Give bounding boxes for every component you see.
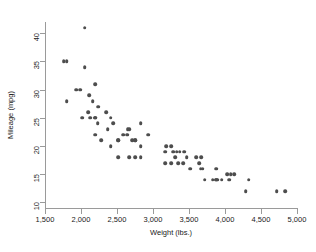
scatter-point	[112, 122, 116, 126]
scatter-point	[165, 144, 169, 148]
scatter-point	[104, 110, 108, 114]
scatter-point	[211, 178, 215, 182]
y-tick-label-text: 40	[32, 33, 41, 41]
y-tick-label-text: 15	[32, 174, 41, 182]
scatter-point	[89, 116, 93, 120]
scatter-point	[181, 161, 185, 165]
x-tick	[189, 209, 190, 214]
scatter-point	[127, 155, 131, 159]
scatter-point	[201, 167, 205, 171]
x-tick-label: 4,500	[252, 215, 271, 224]
scatter-point	[139, 122, 143, 126]
scatter-point	[94, 116, 98, 120]
scatter-point	[121, 133, 125, 137]
scatter-point	[163, 161, 167, 165]
y-tick	[40, 146, 45, 147]
scatter-point	[194, 155, 198, 159]
scatter-point	[130, 139, 134, 143]
scatter-point	[228, 178, 232, 182]
scatter-point	[117, 155, 121, 159]
scatter-point	[203, 178, 207, 182]
y-tick	[40, 118, 45, 119]
scatter-point	[65, 99, 69, 103]
scatter-point	[146, 133, 150, 137]
y-tick-label-text: 20	[32, 146, 41, 154]
y-axis-title: Mileage (mpg)	[6, 91, 15, 139]
scatter-point	[133, 155, 137, 159]
scatter-point	[109, 144, 113, 148]
scatter-point	[86, 110, 90, 114]
plot-area	[45, 22, 297, 208]
scatter-point	[74, 88, 78, 92]
scatter-point	[225, 172, 229, 176]
x-tick	[225, 209, 226, 214]
scatter-point	[117, 139, 121, 143]
x-tick	[81, 209, 82, 214]
x-tick	[297, 209, 298, 214]
scatter-point	[81, 116, 85, 120]
y-tick-label-text: 10	[32, 202, 41, 210]
y-tick-label-text: 25	[32, 118, 41, 126]
scatter-point	[87, 93, 91, 97]
scatter-point	[106, 127, 110, 131]
x-tick-label: 4,000	[216, 215, 235, 224]
y-tick	[40, 61, 45, 62]
scatter-point	[94, 133, 98, 137]
y-tick	[40, 90, 45, 91]
scatter-point	[83, 26, 87, 30]
scatter-point	[215, 178, 219, 182]
x-tick-label: 1,500	[36, 215, 55, 224]
scatter-point	[197, 161, 201, 165]
scatter-point	[96, 122, 100, 126]
scatter-point	[189, 167, 193, 171]
scatter-point	[244, 189, 248, 193]
scatter-point	[171, 150, 175, 154]
scatter-point	[233, 172, 237, 176]
x-tick-label: 3,000	[144, 215, 163, 224]
scatter-point	[127, 127, 131, 131]
scatter-point	[78, 88, 82, 92]
x-tick	[153, 209, 154, 214]
scatter-point	[174, 155, 178, 159]
scatter-point	[83, 65, 87, 69]
scatter-point	[247, 178, 251, 182]
scatter-point	[220, 178, 224, 182]
scatter-point	[185, 155, 189, 159]
x-tick	[261, 209, 262, 214]
scatter-point	[199, 155, 203, 159]
x-tick-label: 3,500	[180, 215, 199, 224]
x-tick-label: 5,000	[288, 215, 307, 224]
scatter-point	[99, 139, 103, 143]
scatter-point	[139, 144, 143, 148]
x-tick	[45, 209, 46, 214]
y-tick-label-text: 35	[32, 61, 41, 69]
scatter-point	[275, 189, 279, 193]
scatter-point	[109, 116, 113, 120]
x-tick	[117, 209, 118, 214]
scatter-point	[96, 105, 100, 109]
scatter-point	[163, 150, 167, 154]
scatter-point	[215, 167, 219, 171]
scatter-point	[169, 144, 173, 148]
x-tick-label: 2,000	[72, 215, 91, 224]
scatter-point	[65, 60, 69, 64]
scatter-point	[176, 161, 180, 165]
scatter-point	[125, 133, 129, 137]
y-tick	[40, 202, 45, 203]
y-axis-line	[45, 22, 46, 209]
y-tick-label-text: 30	[32, 90, 41, 98]
scatter-point	[139, 155, 143, 159]
scatter-point	[169, 161, 173, 165]
scatter-point	[284, 189, 288, 193]
scatter-point	[94, 82, 98, 86]
y-tick	[40, 33, 45, 34]
scatter-point	[178, 150, 182, 154]
y-tick	[40, 174, 45, 175]
scatter-point	[91, 99, 95, 103]
x-axis-title: Weight (lbs.)	[150, 228, 192, 237]
x-tick-label: 2,500	[108, 215, 127, 224]
scatter-chart-figure: 10152025303540 1,5002,0002,5003,0003,500…	[0, 0, 316, 252]
scatter-point	[182, 150, 186, 154]
